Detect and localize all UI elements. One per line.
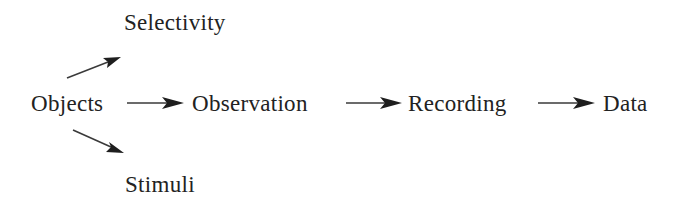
- arrow-observation-to-recording-icon: [346, 97, 402, 109]
- node-recording: Recording: [408, 92, 507, 115]
- node-stimuli: Stimuli: [125, 173, 195, 196]
- flow-diagram: Selectivity Objects Observation Recordin…: [0, 0, 691, 201]
- arrow-recording-to-data-icon: [538, 97, 595, 109]
- arrow-objects-to-selectivity-icon: [67, 57, 121, 78]
- node-selectivity: Selectivity: [124, 11, 226, 34]
- node-objects: Objects: [31, 92, 103, 115]
- arrows-layer: [0, 0, 691, 201]
- arrow-objects-to-stimuli-icon: [73, 130, 124, 153]
- node-observation: Observation: [192, 92, 308, 115]
- node-data: Data: [603, 92, 648, 115]
- arrow-objects-to-observation-icon: [127, 97, 184, 109]
